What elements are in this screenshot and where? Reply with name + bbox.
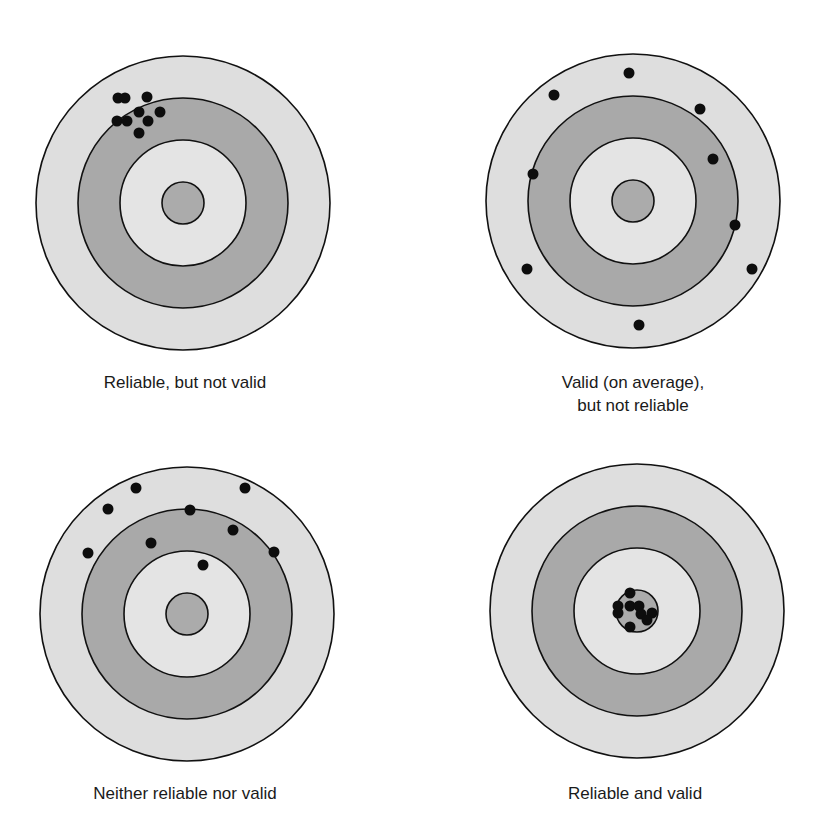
shot-dot [155,107,166,118]
bullseye [612,180,654,222]
bullseye [166,593,208,635]
shot-dot [528,169,539,180]
shot-dot [120,93,131,104]
caption-line: Neither reliable nor valid [93,782,276,805]
target-reliable-and-valid [490,464,784,758]
shot-dot [240,483,251,494]
shot-dot [134,107,145,118]
shot-dot [708,154,719,165]
target-caption: Reliable and valid [568,782,702,805]
reliability-validity-diagram [0,0,824,837]
shot-dot [522,264,533,275]
shot-dot [142,92,153,103]
shot-dot [185,505,196,516]
shot-dot [228,525,239,536]
caption-line: but not reliable [562,394,704,417]
shot-dot [549,90,560,101]
target-reliable-not-valid [36,56,330,350]
shot-dot [625,622,636,633]
shot-dot [134,128,145,139]
shot-dot [695,104,706,115]
shot-dot [642,615,653,626]
shot-dot [122,116,133,127]
caption-line: Reliable and valid [568,782,702,805]
shot-dot [146,538,157,549]
bullseye [162,182,204,224]
shot-dot [143,116,154,127]
target-caption: Valid (on average),but not reliable [562,371,704,417]
shot-dot [747,264,758,275]
shot-dot [269,547,280,558]
target-caption: Neither reliable nor valid [93,782,276,805]
shot-dot [198,560,209,571]
target-valid-not-reliable [486,54,780,348]
target-caption: Reliable, but not valid [104,371,267,394]
shot-dot [112,116,123,127]
shot-dot [730,220,741,231]
caption-line: Valid (on average), [562,371,704,394]
caption-line: Reliable, but not valid [104,371,267,394]
shot-dot [634,320,645,331]
shot-dot [131,483,142,494]
shot-dot [103,504,114,515]
target-neither-reliable-nor-valid [40,467,334,761]
shot-dot [613,608,624,619]
shot-dot [83,548,94,559]
shot-dot [624,68,635,79]
shot-dot [625,588,636,599]
